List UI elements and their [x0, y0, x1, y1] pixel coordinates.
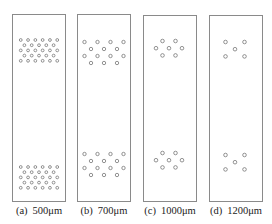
- hole-icon: [41, 49, 44, 52]
- hole-cluster-c-top: [154, 39, 184, 57]
- hole-icon: [49, 186, 52, 189]
- hole-icon: [38, 44, 41, 47]
- caption-label: (a): [16, 205, 28, 216]
- hole-icon: [161, 166, 165, 170]
- hole-icon: [45, 171, 48, 174]
- hole-icon: [56, 186, 59, 189]
- hole-icon: [52, 54, 55, 57]
- hole-icon: [115, 159, 118, 162]
- hole-icon: [243, 55, 247, 59]
- caption-a: (a)500μm: [16, 205, 62, 216]
- hole-icon: [56, 166, 59, 169]
- caption-value: 1000μm: [161, 205, 196, 216]
- caption-label: (b): [81, 205, 93, 216]
- hole-icon: [109, 40, 112, 43]
- hole-icon: [27, 176, 30, 179]
- hole-icon: [34, 186, 37, 189]
- hole-icon: [45, 181, 48, 184]
- hole-cluster-b-bottom: [83, 152, 125, 176]
- hole-icon: [83, 54, 86, 57]
- hole-icon: [233, 47, 237, 51]
- hole-icon: [45, 44, 48, 47]
- hole-icon: [27, 166, 30, 169]
- hole-icon: [19, 176, 22, 179]
- hole-icon: [19, 59, 22, 62]
- hole-icon: [30, 181, 33, 184]
- hole-icon: [56, 176, 59, 179]
- hole-cluster-c-bottom: [154, 151, 184, 169]
- caption-label: (c): [144, 205, 156, 216]
- hole-icon: [243, 40, 247, 44]
- hole-icon: [45, 54, 48, 57]
- hole-icon: [243, 153, 247, 157]
- hole-icon: [41, 59, 44, 62]
- hole-icon: [224, 168, 228, 172]
- hole-icon: [23, 181, 26, 184]
- hole-icon: [167, 158, 171, 162]
- hole-icon: [27, 39, 30, 42]
- hole-icon: [224, 55, 228, 59]
- hole-icon: [56, 59, 59, 62]
- hole-icon: [174, 39, 178, 43]
- hole-icon: [180, 46, 184, 50]
- hole-icon: [102, 173, 105, 176]
- hole-icon: [174, 54, 178, 58]
- caption-label: (d): [210, 205, 222, 216]
- hole-icon: [154, 46, 158, 50]
- hole-icon: [41, 176, 44, 179]
- hole-icon: [180, 158, 184, 162]
- hole-icon: [30, 54, 33, 57]
- hole-icon: [122, 40, 125, 43]
- hole-icon: [52, 171, 55, 174]
- hole-icon: [174, 151, 178, 155]
- hole-icon: [83, 152, 86, 155]
- hole-icon: [224, 40, 228, 44]
- hole-icon: [38, 171, 41, 174]
- hole-icon: [23, 44, 26, 47]
- hole-icon: [19, 39, 22, 42]
- hole-icon: [52, 44, 55, 47]
- hole-icon: [83, 40, 86, 43]
- hole-icon: [52, 181, 55, 184]
- hole-icon: [27, 59, 30, 62]
- hole-icon: [30, 171, 33, 174]
- hole-icon: [161, 39, 165, 43]
- hole-cluster-b-top: [83, 40, 125, 64]
- hole-icon: [34, 59, 37, 62]
- hole-icon: [96, 152, 99, 155]
- hole-icon: [89, 47, 92, 50]
- hole-icon: [34, 49, 37, 52]
- caption-d: (d)1200μm: [210, 205, 262, 216]
- hole-icon: [109, 54, 112, 57]
- hole-icon: [30, 44, 33, 47]
- hole-icon: [154, 158, 158, 162]
- hole-icon: [96, 54, 99, 57]
- hole-icon: [41, 166, 44, 169]
- hole-icon: [49, 59, 52, 62]
- hole-icon: [34, 176, 37, 179]
- hole-icon: [233, 160, 237, 164]
- hole-icon: [23, 54, 26, 57]
- hole-icon: [167, 46, 171, 50]
- hole-icon: [41, 39, 44, 42]
- caption-b: (b)700μm: [81, 205, 128, 216]
- hole-icon: [83, 166, 86, 169]
- hole-icon: [122, 54, 125, 57]
- hole-icon: [115, 47, 118, 50]
- hole-icon: [161, 54, 165, 58]
- hole-icon: [174, 166, 178, 170]
- hole-icon: [19, 49, 22, 52]
- hole-icon: [19, 166, 22, 169]
- hole-icon: [49, 49, 52, 52]
- hole-patterns: [0, 0, 272, 224]
- hole-icon: [115, 61, 118, 64]
- hole-icon: [109, 152, 112, 155]
- hole-icon: [109, 166, 112, 169]
- hole-icon: [102, 159, 105, 162]
- caption-value: 700μm: [98, 205, 128, 216]
- hole-icon: [122, 152, 125, 155]
- hole-icon: [96, 40, 99, 43]
- hole-icon: [115, 173, 118, 176]
- caption-value: 1200μm: [227, 205, 262, 216]
- hole-icon: [243, 168, 247, 172]
